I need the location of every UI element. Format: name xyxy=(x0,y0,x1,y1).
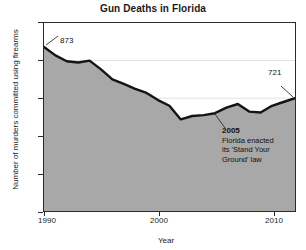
x-axis-label: Year xyxy=(36,236,296,245)
area-chart-svg xyxy=(44,23,295,211)
y-tickmark-0 xyxy=(38,212,43,213)
chart-title: Gun Deaths in Florida xyxy=(0,3,306,14)
callout-line-2: its 'Stand Your xyxy=(222,145,274,155)
y-axis-label: Number of murders committed using firear… xyxy=(11,15,20,205)
leader-line-last-point xyxy=(281,86,293,97)
y-tickmark-400 xyxy=(38,136,43,137)
callout-line-3: Ground' law xyxy=(222,155,274,165)
x-tick-label-2010: 2010 xyxy=(265,216,283,225)
plot-area xyxy=(43,22,296,212)
y-tickmark-200 xyxy=(38,174,43,175)
annotation-last-value: 721 xyxy=(268,68,281,77)
gun-deaths-florida-chart: Gun Deaths in Florida Number of murders … xyxy=(0,0,306,250)
y-tickmark-1000 xyxy=(38,22,43,23)
callout-line-1: Florida enacted xyxy=(222,136,274,146)
leader-line-first-point xyxy=(46,36,58,45)
callout-year: 2005 xyxy=(222,126,274,136)
x-tick-label-2000: 2000 xyxy=(150,216,168,225)
annotation-first-value: 873 xyxy=(60,36,73,45)
x-tick-label-1990: 1990 xyxy=(38,216,56,225)
annotation-stand-your-ground: 2005 Florida enacted its 'Stand Your Gro… xyxy=(222,126,274,164)
y-tickmark-600 xyxy=(38,98,43,99)
y-tickmark-800 xyxy=(38,60,43,61)
